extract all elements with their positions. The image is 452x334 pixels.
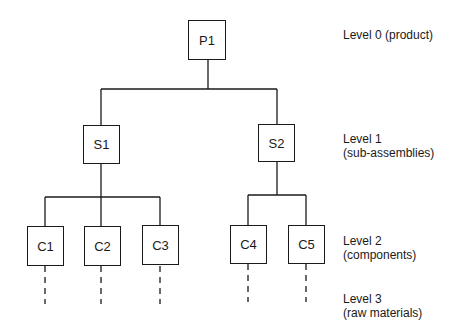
level-3-title: Level 3 [343, 292, 422, 306]
node-p1: P1 [188, 20, 226, 60]
level-1-subtitle: (sub-assemblies) [343, 146, 434, 160]
level-1-label: Level 1 (sub-assemblies) [343, 132, 434, 160]
level-0-title: Level 0 (product) [343, 28, 433, 42]
node-c2: C2 [84, 226, 121, 266]
level-2-label: Level 2 (components) [343, 234, 416, 262]
node-s1: S1 [83, 125, 120, 164]
node-s2: S2 [258, 124, 295, 162]
node-c4: C4 [230, 225, 267, 264]
level-2-title: Level 2 [343, 234, 416, 248]
connector-lines [0, 0, 452, 334]
level-2-subtitle: (components) [343, 248, 416, 262]
level-0-label: Level 0 (product) [343, 28, 433, 42]
node-c5: C5 [288, 225, 325, 264]
level-3-label: Level 3 (raw materials) [343, 292, 422, 320]
level-1-title: Level 1 [343, 132, 434, 146]
product-structure-diagram: P1 S1 S2 C1 C2 C3 C4 C5 Level 0 (product… [0, 0, 452, 334]
node-c3: C3 [142, 225, 179, 265]
level-3-subtitle: (raw materials) [343, 306, 422, 320]
node-c1: C1 [27, 226, 64, 266]
